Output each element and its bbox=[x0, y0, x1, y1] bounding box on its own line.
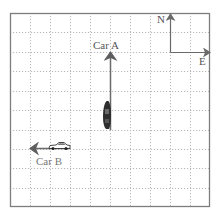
east-label: E bbox=[199, 56, 206, 67]
grid-canvas bbox=[0, 0, 218, 216]
car-b-label: Car B bbox=[36, 156, 62, 167]
car-b-icon bbox=[49, 143, 70, 151]
car-a-label: Car A bbox=[93, 40, 119, 51]
car-a-icon bbox=[103, 101, 111, 129]
north-label: N bbox=[157, 14, 165, 25]
